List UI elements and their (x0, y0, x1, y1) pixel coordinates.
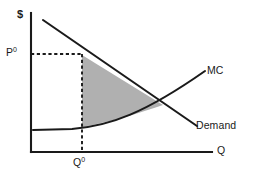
quantity-level-superscript: 0 (81, 156, 85, 163)
price-level-label: P0 (6, 47, 17, 58)
quantity-axis-label: Q (217, 145, 225, 156)
price-level-superscript: 0 (13, 46, 17, 53)
price-axis-label: $ (17, 9, 23, 20)
economics-diagram: $ P0 Q0 Q MC Demand (0, 0, 253, 174)
quantity-level-label: Q0 (73, 157, 85, 168)
demand-curve-label: Demand (196, 120, 236, 131)
mc-curve-label: MC (207, 65, 224, 76)
diagram-canvas (0, 0, 253, 174)
shaded-surplus-region (82, 55, 163, 127)
